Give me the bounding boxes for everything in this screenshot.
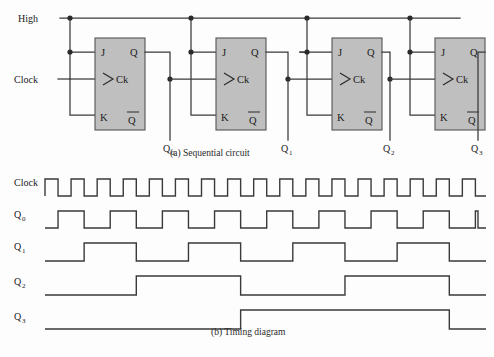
ff3-pin-j: J [441,47,445,58]
waveform-clock [45,179,486,196]
ff1-k-wire [191,52,216,115]
high-input-label: High [18,13,38,24]
ff1-pin-qbar: Q [249,115,257,126]
timing-row-label-q3: Q [14,311,22,322]
waveform-q1 [45,243,486,261]
output-label-q2: Q [383,143,391,154]
ff2-pin-q: Q [367,47,375,58]
junction-dot [304,15,309,20]
timing-row-label-q2: Q [14,276,22,287]
ff2-pin-k: K [337,112,345,123]
timing-diagram: Clock Q 0 Q 1 Q 2 Q 3 [14,177,486,329]
ff2-pin-qbar: Q [365,115,373,126]
caption-timing-diagram: (b) Timing diagram [211,327,285,337]
ff0-pin-q: Q [130,47,138,58]
ff2-k-wire [307,52,332,115]
waveform-q0 [45,211,486,228]
ff3-j-wire [410,18,435,52]
flipflop-stage-3: J K Ck Q Q Q 3 [390,15,485,157]
timing-row-sub-q3: 3 [22,317,26,325]
timing-row-sub-q2: 2 [22,282,26,290]
clock-input-label: Clock [14,74,38,85]
ff3-pin-qbar: Q [468,115,476,126]
junction-dot [188,15,193,20]
junction-dot [304,49,309,54]
ff0-q-output-wire [145,52,170,140]
junction-dot [407,15,412,20]
ff1-j-wire [191,18,216,52]
ff0-pin-qbar: Q [128,115,136,126]
timing-row-sub-q1: 1 [22,247,26,255]
ff0-k-wire [70,52,95,115]
flipflop-stage-0: J K Ck Q Q Q 0 [67,15,175,157]
sequential-circuit: High Clock J K Ck Q Q [14,13,485,157]
output-label-q3: Q [471,143,479,154]
timing-row-label-q0: Q [14,209,22,220]
figure-ripple-counter: High Clock J K Ck Q Q [0,0,494,357]
output-sub-q3: 3 [479,149,483,157]
output-label-q1: Q [281,143,289,154]
ff3-pin-q: Q [470,47,478,58]
junction-dot [188,49,193,54]
timing-row-sub-q0: 0 [22,215,26,223]
ff3-pin-k: K [440,112,448,123]
ff3-pin-ck: Ck [456,74,469,85]
junction-dot [407,49,412,54]
ff2-pin-j: J [338,47,342,58]
ff0-j-wire [70,18,95,52]
timing-row-label-q1: Q [14,241,22,252]
flipflop-stage-2: J K Ck Q Q Q 2 [288,15,395,157]
ff3-k-wire [410,52,435,115]
ff1-pin-k: K [221,112,229,123]
waveform-q2 [45,276,486,295]
figure-canvas: High Clock J K Ck Q Q [0,0,494,357]
junction-dot [67,15,72,20]
output-sub-q2: 2 [391,149,395,157]
ff1-pin-j: J [222,47,226,58]
ff0-pin-j: J [101,47,105,58]
ff2-j-feed-wire [300,18,307,52]
ff1-pin-ck: Ck [237,74,250,85]
junction-dot [67,49,72,54]
ff2-pin-ck: Ck [353,74,366,85]
ff0-pin-ck: Ck [116,74,129,85]
flipflop-stage-1: J K Ck Q Q Q 1 [170,15,293,157]
ff0-pin-k: K [100,112,108,123]
ff1-q-output-wire [266,52,288,140]
timing-row-label-clock: Clock [14,177,38,188]
ff1-pin-q: Q [251,47,259,58]
caption-sequential-circuit: (a) Sequential circuit [170,148,250,158]
output-sub-q1: 1 [289,149,293,157]
ff2-q-output-wire [382,52,390,140]
